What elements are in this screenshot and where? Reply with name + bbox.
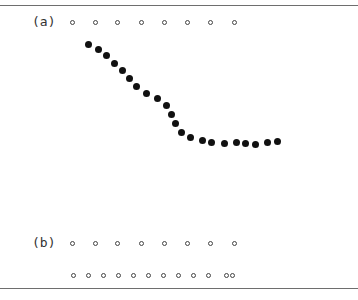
filled-dot xyxy=(172,120,179,127)
open-circle-b-row2 xyxy=(224,273,229,278)
open-circle-b-row2 xyxy=(206,273,211,278)
filled-dot xyxy=(103,52,110,59)
open-circle-a xyxy=(115,20,120,25)
open-circle-b-row2 xyxy=(230,273,235,278)
filled-dot xyxy=(264,139,271,146)
open-circle-b-row1 xyxy=(93,241,98,246)
filled-dot xyxy=(187,134,194,141)
open-circle-a xyxy=(208,20,213,25)
filled-dot xyxy=(119,67,126,74)
open-circle-b-row2 xyxy=(86,273,91,278)
filled-dot xyxy=(242,140,249,147)
open-circle-b-row1 xyxy=(208,241,213,246)
open-circle-b-row2 xyxy=(101,273,106,278)
open-circle-b-row1 xyxy=(115,241,120,246)
filled-dot xyxy=(95,46,102,53)
open-circle-b-row2 xyxy=(71,273,76,278)
open-circle-b-row1 xyxy=(162,241,167,246)
open-circle-b-row1 xyxy=(139,241,144,246)
filled-dot xyxy=(274,138,281,145)
open-circle-a xyxy=(139,20,144,25)
open-circle-b-row2 xyxy=(191,273,196,278)
open-circle-b-row2 xyxy=(146,273,151,278)
filled-dot xyxy=(126,75,133,82)
open-circle-b-row1 xyxy=(232,241,237,246)
filled-dot xyxy=(233,139,240,146)
open-circle-a xyxy=(162,20,167,25)
filled-dot xyxy=(163,102,170,109)
open-circle-a xyxy=(70,20,75,25)
filled-dot xyxy=(143,90,150,97)
open-circle-a xyxy=(93,20,98,25)
open-circle-b-row2 xyxy=(116,273,121,278)
filled-dot xyxy=(208,139,215,146)
open-circle-b-row2 xyxy=(176,273,181,278)
top-border xyxy=(0,5,358,6)
open-circle-b-row1 xyxy=(70,241,75,246)
panel-b-label: (b) xyxy=(32,236,55,249)
open-circle-b-row2 xyxy=(131,273,136,278)
filled-dot xyxy=(154,95,161,102)
filled-dot xyxy=(199,137,206,144)
open-circle-a xyxy=(185,20,190,25)
filled-dot xyxy=(168,111,175,118)
bottom-border xyxy=(0,288,358,289)
filled-dot xyxy=(85,41,92,48)
filled-dot xyxy=(178,129,185,136)
open-circle-b-row1 xyxy=(185,241,190,246)
open-circle-b-row2 xyxy=(161,273,166,278)
filled-dot xyxy=(133,83,140,90)
panel-a-label: (a) xyxy=(32,15,55,28)
open-circle-a xyxy=(232,20,237,25)
filled-dot xyxy=(221,140,228,147)
filled-dot xyxy=(111,60,118,67)
filled-dot xyxy=(252,141,259,148)
